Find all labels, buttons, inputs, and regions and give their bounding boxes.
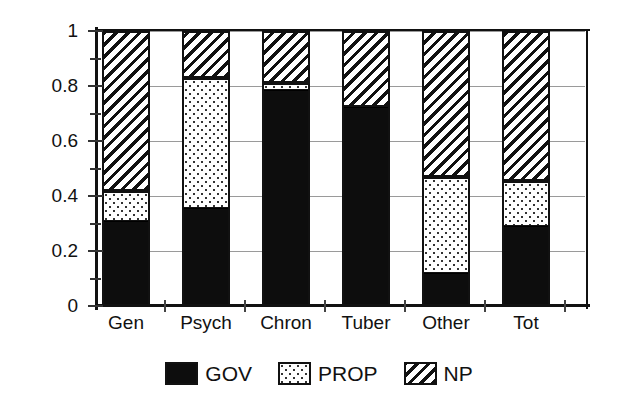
chart-legend: GOV PROP NP xyxy=(0,362,638,385)
legend-item-prop: PROP xyxy=(278,362,378,385)
legend-label-np: NP xyxy=(444,363,473,384)
bar-other xyxy=(422,31,470,306)
y-axis-label-0.8: 0.8 xyxy=(4,76,78,95)
bar-segment-gov-psych xyxy=(184,208,228,306)
solid-black-swatch-icon xyxy=(165,362,198,385)
bar-segment-prop-psych xyxy=(184,78,228,209)
x-tick-2 xyxy=(324,300,326,312)
y-axis-label-0.4: 0.4 xyxy=(4,186,78,205)
x-tick-4 xyxy=(484,300,486,312)
y-tick-0.2 xyxy=(88,250,103,252)
y-axis-label-0.2: 0.2 xyxy=(4,241,78,260)
y-tick-0.4 xyxy=(88,195,103,197)
y-tick-0 xyxy=(88,305,103,307)
stacked-bar-chart: 10.80.60.40.20 GenPsychChronTuberOtherTo… xyxy=(0,0,638,419)
dotted-swatch-icon xyxy=(278,362,311,385)
x-axis-line xyxy=(95,304,590,307)
y-axis-label-0: 0 xyxy=(4,296,78,315)
bar-segment-gov-chron xyxy=(264,90,308,306)
x-tick-5 xyxy=(564,300,566,312)
y-tick-0.8 xyxy=(88,85,103,87)
plot-area xyxy=(100,31,585,306)
y-tick-minor-0.3 xyxy=(90,223,101,225)
legend-item-np: NP xyxy=(404,362,473,385)
bar-segment-np-tuber xyxy=(344,31,388,107)
plot-top-border xyxy=(95,29,590,31)
x-tick-3 xyxy=(404,300,406,312)
bar-segment-prop-tot xyxy=(504,181,548,226)
x-tick-0 xyxy=(164,300,166,312)
bar-tuber xyxy=(342,31,390,306)
legend-label-gov: GOV xyxy=(205,363,252,384)
bar-segment-prop-gen xyxy=(104,191,148,221)
y-tick-minor-0.1 xyxy=(90,278,101,280)
bar-segment-np-psych xyxy=(184,31,228,78)
bar-segment-np-tot xyxy=(504,31,548,181)
y-axis-label-1: 1 xyxy=(4,21,78,40)
bar-segment-gov-tuber xyxy=(344,107,388,306)
legend-label-prop: PROP xyxy=(318,363,378,384)
y-tick-1 xyxy=(88,30,103,32)
bar-segment-np-gen xyxy=(104,31,148,191)
y-tick-minor-0.9 xyxy=(90,58,101,60)
x-tick-1 xyxy=(244,300,246,312)
bar-segment-np-chron xyxy=(264,31,308,83)
bar-tot xyxy=(502,31,550,306)
x-axis-label-tot: Tot xyxy=(471,312,581,334)
bar-segment-gov-tot xyxy=(504,226,548,306)
y-tick-minor-0.5 xyxy=(90,168,101,170)
y-tick-0.6 xyxy=(88,140,103,142)
legend-item-gov: GOV xyxy=(165,362,252,385)
bar-segment-prop-other xyxy=(424,177,468,273)
bar-segment-np-other xyxy=(424,31,468,177)
bar-gen xyxy=(102,31,150,306)
bar-psych xyxy=(182,31,230,306)
y-tick-minor-0.7 xyxy=(90,113,101,115)
bar-segment-gov-other xyxy=(424,273,468,306)
plot-right-border xyxy=(586,29,588,309)
bar-segment-prop-chron xyxy=(264,83,308,90)
y-axis-label-0.6: 0.6 xyxy=(4,131,78,150)
bar-chron xyxy=(262,31,310,306)
hatched-swatch-icon xyxy=(404,362,437,385)
bar-segment-gov-gen xyxy=(104,221,148,306)
